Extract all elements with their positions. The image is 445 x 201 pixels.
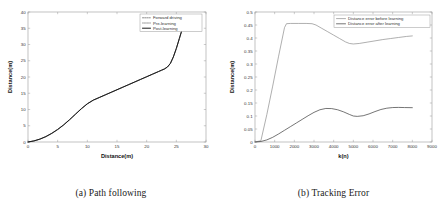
- x-tick-label: 25: [174, 144, 179, 149]
- y-tick-label: 0.35: [244, 49, 253, 54]
- x-tick-label: 9000: [427, 144, 437, 149]
- y-tick-label: 30: [21, 42, 26, 47]
- x-tick-label: 6000: [368, 144, 378, 149]
- y-tick-label: 0.25: [244, 75, 253, 80]
- figure-row: 0510152025300510152025303540Distance(m)D…: [0, 0, 445, 201]
- y-tick-label: 35: [21, 26, 26, 31]
- x-tick-label: 1000: [270, 144, 280, 149]
- y-tick-label: 5: [23, 123, 26, 128]
- y-tick-label: 0.1: [246, 114, 253, 119]
- legend-label-2: Post-learning: [153, 26, 178, 31]
- legend-label-1: Distance error after learning: [348, 21, 401, 26]
- x-axis-title: k(n): [338, 153, 348, 159]
- x-tick-label: 2000: [289, 144, 299, 149]
- x-tick-label: 0: [27, 144, 30, 149]
- x-tick-label: 30: [204, 144, 209, 149]
- figure-panel-a: 0510152025300510152025303540Distance(m)D…: [0, 0, 222, 201]
- y-tick-label: 0.5: [246, 10, 253, 15]
- y-tick-label: 0.15: [244, 101, 253, 106]
- caption-a: (a) Path following: [0, 188, 222, 198]
- y-tick-label: 10: [21, 107, 26, 112]
- y-tick-label: 0.05: [244, 127, 253, 132]
- y-tick-label: 0.4: [246, 36, 253, 41]
- x-tick-label: 5000: [348, 144, 358, 149]
- x-tick-label: 4000: [329, 144, 339, 149]
- x-tick-label: 3000: [309, 144, 319, 149]
- x-tick-label: 0: [254, 144, 257, 149]
- y-tick-label: 40: [21, 10, 26, 15]
- chart-b-area: 010002000300040005000600070008000900000.…: [222, 0, 445, 170]
- y-tick-label: 0: [23, 140, 26, 145]
- y-tick-label: 25: [21, 58, 26, 63]
- chart-a-area: 0510152025300510152025303540Distance(m)D…: [0, 0, 222, 170]
- chart-a-svg: 0510152025300510152025303540Distance(m)D…: [0, 0, 222, 170]
- figure-panel-b: 010002000300040005000600070008000900000.…: [222, 0, 445, 201]
- y-tick-label: 20: [21, 75, 26, 80]
- y-tick-label: 0.2: [246, 88, 253, 93]
- y-tick-label: 15: [21, 91, 26, 96]
- x-tick-label: 15: [115, 144, 120, 149]
- y-tick-label: 0.3: [246, 62, 253, 67]
- y-axis-title: Distance(m): [229, 61, 235, 93]
- x-tick-label: 7000: [388, 144, 398, 149]
- x-tick-label: 20: [144, 144, 149, 149]
- x-tick-label: 10: [85, 144, 90, 149]
- caption-b: (b) Tracking Error: [222, 188, 445, 198]
- y-tick-label: 0: [250, 140, 253, 145]
- y-axis-title: Distance(m): [7, 61, 13, 93]
- y-tick-label: 0.45: [244, 23, 253, 28]
- x-axis-title: Distance(m): [101, 153, 133, 159]
- plot-frame: [255, 12, 432, 142]
- x-tick-label: 8000: [407, 144, 417, 149]
- chart-b-svg: 010002000300040005000600070008000900000.…: [222, 0, 445, 170]
- x-tick-label: 5: [56, 144, 59, 149]
